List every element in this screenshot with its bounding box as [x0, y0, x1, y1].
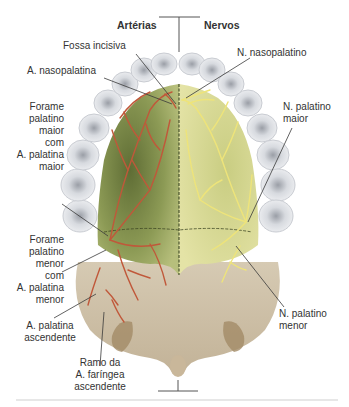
label-forame-palatino-maior: Forame palatino maior com A. palatina ma… — [2, 101, 64, 173]
label-n-palatino-menor: N. palatino menor — [279, 308, 327, 332]
hard-palate-diagram: Artérias Nervos Fossa incisiva A. nasopa… — [0, 0, 349, 407]
label-a-nasopalatina: A. nasopalatina — [27, 65, 96, 77]
label-n-palatino-maior: N. palatino maior — [283, 101, 331, 125]
label-ramo-faringea-ascendente: Ramo da A. faríngea ascendente — [68, 357, 132, 393]
label-a-palatina-ascendente: A. palatina ascendente — [20, 320, 80, 344]
label-n-nasopalatino: N. nasopalatino — [237, 47, 307, 59]
header-nerves: Nervos — [204, 19, 240, 31]
label-fossa-incisiva: Fossa incisiva — [63, 40, 126, 52]
midline-bottom-marker — [158, 380, 198, 391]
palate-illustration — [0, 0, 349, 407]
uvula — [170, 355, 186, 377]
header-arteries: Artérias — [117, 19, 157, 31]
label-forame-palatino-menor: Forame palatino menor com A. palatina me… — [2, 234, 64, 306]
midline-top-marker — [159, 17, 200, 52]
